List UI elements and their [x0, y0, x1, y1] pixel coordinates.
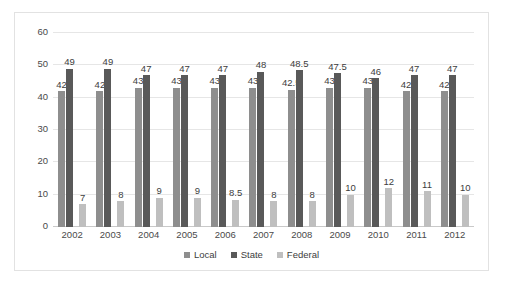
bar-value-label: 8 [271, 190, 276, 200]
bar-rect [441, 91, 448, 227]
bar-rect [296, 70, 303, 227]
x-axis-tick-label: 2008 [283, 230, 321, 240]
chart-legend: LocalStateFederal [15, 250, 488, 260]
bar-rect [135, 88, 142, 227]
bar-rect [96, 91, 103, 227]
bar-rect [334, 73, 341, 227]
bar-rect [270, 201, 277, 227]
bar-rect [117, 201, 124, 227]
bar-cluster: 42498 [91, 33, 129, 227]
bar-rect [403, 91, 410, 227]
bar-value-label: 11 [422, 180, 432, 190]
bar-federal-2007[interactable]: 8 [270, 33, 277, 227]
bar-federal-2011[interactable]: 11 [424, 33, 431, 227]
bar-value-label: 8 [118, 190, 123, 200]
bar-value-label: 12 [383, 177, 394, 187]
x-axis-tick-label: 2011 [397, 230, 435, 240]
bar-value-label: 47 [447, 64, 458, 74]
bar-cluster: 43479 [130, 33, 168, 227]
bar-clusters: 4249742498434794347943478.54348842.548.5… [53, 33, 474, 227]
y-axis-tick-label: 30 [37, 124, 48, 134]
bar-state-2004[interactable]: 47 [143, 33, 150, 227]
chart-frame: 0102030405060 4249742498434794347943478.… [14, 12, 489, 271]
bar-rect [411, 75, 418, 227]
bar-state-2008[interactable]: 48.5 [296, 33, 303, 227]
bar-cluster: 434612 [359, 33, 397, 227]
bar-value-label: 9 [157, 186, 162, 196]
y-axis-tick-label: 50 [37, 60, 48, 70]
bar-cluster: 424710 [436, 33, 474, 227]
bar-rect [326, 88, 333, 227]
bar-value-label: 46 [370, 67, 381, 77]
bar-rect [347, 195, 354, 227]
bar-federal-2006[interactable]: 8.5 [232, 33, 239, 227]
bar-rect [181, 75, 188, 227]
bar-cluster: 4347.510 [321, 33, 359, 227]
legend-swatch-icon [277, 252, 283, 258]
legend-item-federal[interactable]: Federal [277, 250, 319, 260]
bar-state-2002[interactable]: 49 [66, 33, 73, 227]
x-axis-tick-label: 2003 [91, 230, 129, 240]
plot-area: 0102030405060 4249742498434794347943478.… [53, 33, 474, 227]
bar-value-label: 48 [256, 60, 267, 70]
x-axis-tick-labels: 2002200320042005200620072008200920102011… [53, 230, 474, 240]
bar-federal-2009[interactable]: 10 [347, 33, 354, 227]
bar-state-2003[interactable]: 49 [104, 33, 111, 227]
bar-rect [385, 188, 392, 227]
bar-state-2009[interactable]: 47.5 [334, 33, 341, 227]
bar-rect [66, 69, 73, 227]
x-axis-tick-label: 2006 [206, 230, 244, 240]
bar-federal-2005[interactable]: 9 [194, 33, 201, 227]
bar-cluster: 43488 [244, 33, 282, 227]
bar-state-2007[interactable]: 48 [257, 33, 264, 227]
bar-value-label: 10 [345, 183, 356, 193]
bar-rect [288, 90, 295, 227]
legend-label: Federal [287, 250, 319, 260]
bar-rect [249, 88, 256, 227]
bar-rect [194, 198, 201, 227]
bar-state-2011[interactable]: 47 [411, 33, 418, 227]
x-axis-tick-label: 2010 [359, 230, 397, 240]
bar-rect [257, 72, 264, 227]
bar-rect [232, 200, 239, 227]
bar-federal-2004[interactable]: 9 [156, 33, 163, 227]
x-axis-tick-label: 2004 [130, 230, 168, 240]
bar-rect [449, 75, 456, 227]
bar-value-label: 8.5 [229, 188, 242, 198]
legend-label: Local [194, 250, 217, 260]
bar-federal-2002[interactable]: 7 [79, 33, 86, 227]
legend-swatch-icon [184, 252, 190, 258]
bar-state-2006[interactable]: 47 [219, 33, 226, 227]
bar-federal-2008[interactable]: 8 [309, 33, 316, 227]
bar-value-label: 49 [103, 57, 114, 67]
bar-rect [173, 88, 180, 227]
bar-federal-2010[interactable]: 12 [385, 33, 392, 227]
bar-value-label: 7 [80, 193, 85, 203]
y-axis-tick-label: 40 [37, 92, 48, 102]
bar-value-label: 48.5 [290, 59, 309, 69]
y-axis-tick-label: 60 [37, 27, 48, 37]
bar-rect [424, 191, 431, 227]
bar-cluster: 43478.5 [206, 33, 244, 227]
bar-rect [372, 78, 379, 227]
bar-rect [219, 75, 226, 227]
bar-value-label: 47 [217, 64, 228, 74]
bar-federal-2012[interactable]: 10 [462, 33, 469, 227]
bar-state-2012[interactable]: 47 [449, 33, 456, 227]
legend-item-state[interactable]: State [231, 250, 263, 260]
bar-rect [462, 195, 469, 227]
bar-cluster: 42.548.58 [283, 33, 321, 227]
bar-value-label: 47 [409, 64, 420, 74]
y-axis-tick-label: 10 [37, 189, 48, 199]
bar-state-2005[interactable]: 47 [181, 33, 188, 227]
bar-value-label: 8 [310, 190, 315, 200]
x-axis-tick-label: 2007 [244, 230, 282, 240]
bar-rect [79, 204, 86, 227]
bar-federal-2003[interactable]: 8 [117, 33, 124, 227]
bar-local-2010[interactable]: 43 [364, 33, 371, 227]
x-axis-tick-label: 2012 [436, 230, 474, 240]
legend-item-local[interactable]: Local [184, 250, 217, 260]
bar-state-2010[interactable]: 46 [372, 33, 379, 227]
bar-rect [58, 91, 65, 227]
legend-swatch-icon [231, 252, 237, 258]
